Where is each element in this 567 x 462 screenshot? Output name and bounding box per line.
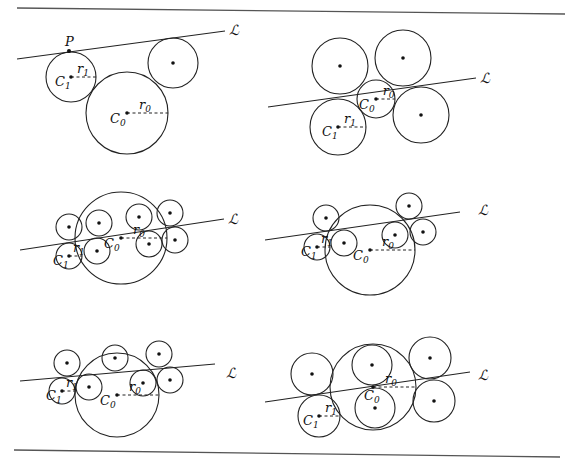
center-dot — [370, 363, 374, 367]
panel-5: ℒC0C1r0r1 — [20, 341, 237, 437]
point-P-dot — [67, 49, 71, 53]
c1-label: C1 — [303, 413, 319, 430]
r0-label: r0 — [382, 234, 394, 251]
c0-label: C0 — [364, 388, 380, 405]
top-rule — [17, 8, 565, 14]
r0-label: r0 — [139, 97, 151, 114]
center-dot — [324, 216, 328, 220]
center-dot — [168, 211, 172, 215]
c1-center-dot — [69, 75, 73, 79]
center-dot — [171, 61, 175, 65]
center-dot — [168, 378, 172, 382]
panel-2: ℒC0C1r0r1 — [268, 30, 491, 155]
line-L — [20, 364, 215, 381]
c1-center-dot — [317, 414, 321, 418]
line-L — [265, 212, 460, 240]
c0-label: C0 — [100, 393, 116, 410]
r1-label: r1 — [73, 240, 85, 257]
line-L-label: ℒ — [478, 202, 489, 218]
c0-center-dot — [119, 236, 123, 240]
c1-center-dot — [336, 125, 340, 129]
center-dot — [419, 113, 423, 117]
panel-3: ℒC0C1r0r1 — [20, 192, 239, 284]
panel-1: ℒC0C1r0r1P — [17, 22, 240, 154]
line-L-label: ℒ — [478, 367, 489, 383]
line-L — [20, 219, 224, 250]
center-dot — [373, 406, 377, 410]
c1-center-dot — [315, 245, 319, 249]
center-dot — [393, 233, 397, 237]
center-dot — [432, 399, 436, 403]
r0-label: r0 — [385, 371, 397, 388]
c1-label: C1 — [46, 388, 62, 405]
c1-center-dot — [67, 254, 71, 258]
center-dot — [113, 356, 117, 360]
c0-center-dot — [115, 393, 119, 397]
line-L-label: ℒ — [228, 211, 239, 227]
center-dot — [95, 249, 99, 253]
c0-center-dot — [374, 97, 378, 101]
center-dot — [147, 242, 151, 246]
line-L — [268, 78, 476, 107]
center-dot — [65, 361, 69, 365]
line-L-label: ℒ — [229, 22, 240, 38]
panel-4: ℒC0C1r0r1 — [265, 193, 489, 295]
c1-label: C1 — [55, 74, 71, 91]
center-dot — [428, 356, 432, 360]
point-P-label: P — [64, 34, 74, 49]
center-dot — [338, 64, 342, 68]
center-dot — [407, 204, 411, 208]
center-dot — [421, 230, 425, 234]
bottom-rule — [14, 450, 560, 457]
r0-label: r0 — [383, 83, 395, 100]
c0-label: C0 — [353, 248, 369, 265]
r1-label: r1 — [321, 231, 333, 248]
c0-center-dot — [368, 248, 372, 252]
c1-label: C1 — [301, 244, 317, 261]
c0-label: C0 — [359, 97, 375, 114]
c0-center-dot — [125, 111, 129, 115]
c1-label: C1 — [53, 253, 69, 270]
r1-label: r1 — [66, 375, 78, 392]
c1-label: C1 — [322, 124, 338, 141]
line-L-label: ℒ — [480, 70, 491, 86]
center-dot — [97, 221, 101, 225]
line-L-label: ℒ — [226, 365, 237, 381]
panel-6: ℒC0C1r0r1 — [265, 337, 489, 437]
r1-label: r1 — [344, 111, 356, 128]
line-L — [17, 31, 225, 59]
center-dot — [173, 238, 177, 242]
center-dot — [310, 372, 314, 376]
diagram-panels: ℒC0C1r0r1PℒC0C1r0r1ℒC0C1r0r1ℒC0C1r0r1ℒC0… — [17, 22, 491, 437]
r0-label: r0 — [133, 222, 145, 239]
center-dot — [137, 215, 141, 219]
center-dot — [401, 56, 405, 60]
r1-label: r1 — [77, 61, 89, 78]
c0-label: C0 — [110, 111, 126, 128]
c0-label: C0 — [104, 236, 120, 253]
center-dot — [141, 381, 145, 385]
circle-tangent-diagram: ℒC0C1r0r1PℒC0C1r0r1ℒC0C1r0r1ℒC0C1r0r1ℒC0… — [0, 0, 567, 462]
center-dot — [157, 352, 161, 356]
center-dot — [342, 241, 346, 245]
center-dot — [67, 225, 71, 229]
c1-center-dot — [60, 389, 64, 393]
center-dot — [87, 385, 91, 389]
r0-label: r0 — [129, 379, 141, 396]
